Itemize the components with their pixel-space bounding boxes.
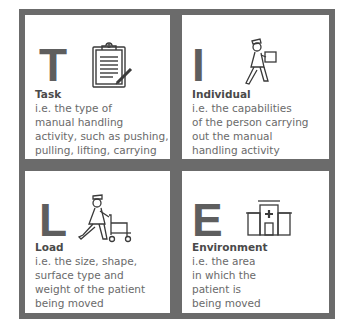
letter-e: E [192,197,223,243]
card-title: Load [35,241,64,254]
card-individual: I Individual i.e. the capabilities of th… [176,9,335,165]
person-carrying-box-icon [244,37,284,91]
letter-i: I [192,42,205,88]
card-description: i.e. the type of manual handling activit… [35,101,169,157]
clipboard-icon [91,41,135,91]
card-title: Individual [192,88,251,101]
card-load: L Load i.e. the size, shape, surface typ… [19,165,176,319]
card-description: i.e. the size, shape, surface type and w… [35,254,145,310]
card-description: i.e. the area in which the patient is be… [192,254,261,310]
letter-l: L [39,197,67,243]
letter-t: T [39,42,67,88]
card-description: i.e. the capabilities of the person carr… [192,101,308,157]
card-title: Task [35,88,61,101]
nurse-with-walker-icon [75,193,137,245]
card-title: Environment [192,241,268,254]
card-task: T Task i.e. the type of manual handling … [19,9,176,165]
card-environment: E Environment i.e. the area in which the… [176,165,335,319]
hospital-building-icon [246,199,294,237]
